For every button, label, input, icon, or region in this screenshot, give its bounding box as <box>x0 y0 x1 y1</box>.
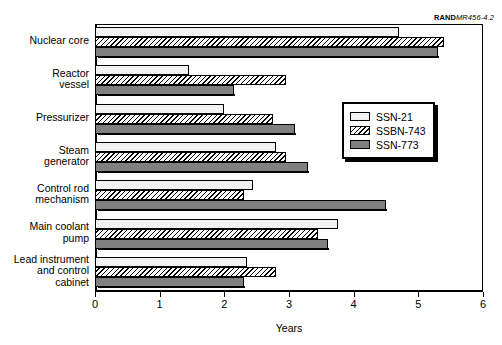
bar-ssn-773 <box>95 277 244 287</box>
category-axis: Nuclear coreReactor vesselPressurizerSte… <box>0 24 89 292</box>
bar-ssn-21 <box>95 104 224 114</box>
x-tick-mark <box>483 292 484 297</box>
bar-ssbn-743 <box>95 229 318 239</box>
x-tick-mark <box>95 292 96 297</box>
x-tick-label: 5 <box>415 298 421 310</box>
bar-ssn-21 <box>95 257 247 267</box>
legend-item: SSBN-743 <box>350 124 426 137</box>
bar-ssbn-743 <box>95 267 276 277</box>
x-tick-mark <box>224 292 225 297</box>
x-tick-mark <box>289 292 290 297</box>
bar-ssn-773 <box>95 200 386 210</box>
category-label: Pressurizer <box>0 112 89 124</box>
bar-shadow <box>98 286 245 288</box>
hatched-swatch-icon <box>350 126 370 135</box>
bar-ssn-773 <box>95 124 295 134</box>
category-label: Nuclear core <box>0 35 89 47</box>
category-label: Main coolant pump <box>0 221 89 244</box>
bar-shadow <box>98 56 439 58</box>
bar-ssn-21 <box>95 180 253 190</box>
x-tick-label: 4 <box>351 298 357 310</box>
legend-item: SSN-773 <box>350 138 426 151</box>
source-credit-id: MR456-4.2 <box>456 13 494 22</box>
x-tick-mark <box>418 292 419 297</box>
source-credit-rand: RAND <box>434 13 456 22</box>
category-label: Reactor vessel <box>0 68 89 91</box>
x-tick-label: 6 <box>480 298 486 310</box>
legend-item-label: SSN-773 <box>376 139 419 151</box>
bar-shadow <box>98 133 296 135</box>
bar-shadow <box>98 248 329 250</box>
bar-ssn-773 <box>95 162 308 172</box>
x-tick-label: 2 <box>221 298 227 310</box>
x-axis: 0123456 <box>95 292 483 318</box>
bar-ssn-21 <box>95 142 276 152</box>
x-axis-title: Years <box>95 322 483 334</box>
bar-ssbn-743 <box>95 190 244 200</box>
bar-ssbn-743 <box>95 75 286 85</box>
category-label: Control rod mechanism <box>0 183 89 206</box>
legend-item-label: SSN-21 <box>376 111 413 123</box>
white-swatch-icon <box>350 112 370 121</box>
bar-ssn-773 <box>95 47 438 57</box>
bar-shadow <box>98 171 309 173</box>
x-tick-mark <box>160 292 161 297</box>
source-credit: RANDMR456-4.2 <box>434 13 494 22</box>
bar-shadow <box>98 209 387 211</box>
legend-item-label: SSBN-743 <box>376 125 426 137</box>
bar-ssbn-743 <box>95 152 286 162</box>
bar-chart-figure: RANDMR456-4.2 Nuclear coreReactor vessel… <box>0 0 502 345</box>
bar-ssn-21 <box>95 65 189 75</box>
bar-ssn-773 <box>95 239 328 249</box>
bar-ssn-773 <box>95 85 234 95</box>
x-tick-label: 1 <box>157 298 163 310</box>
legend-item: SSN-21 <box>350 110 426 123</box>
x-tick-label: 0 <box>92 298 98 310</box>
bar-ssn-21 <box>95 219 338 229</box>
x-tick-mark <box>354 292 355 297</box>
bar-shadow <box>98 94 235 96</box>
gray-swatch-icon <box>350 140 370 149</box>
bar-ssn-21 <box>95 27 399 37</box>
bar-ssbn-743 <box>95 114 273 124</box>
chart-legend: SSN-21 SSBN-743 SSN-773 <box>342 102 435 159</box>
category-label: Steam generator <box>0 145 89 168</box>
bar-ssbn-743 <box>95 37 444 47</box>
x-tick-label: 3 <box>286 298 292 310</box>
category-label: Lead instrument and control cabinet <box>0 254 89 289</box>
